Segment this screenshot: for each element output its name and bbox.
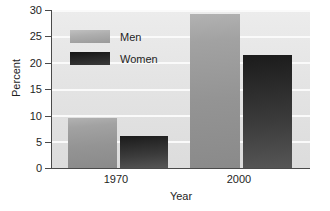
x-axis-title: Year <box>52 190 310 202</box>
legend-swatch-men-icon <box>70 30 110 43</box>
y-tick-15 <box>45 89 51 90</box>
y-tick-25 <box>45 36 51 37</box>
y-tick-label-30: 30 <box>2 5 42 16</box>
gridline-30 <box>52 10 310 12</box>
y-tick-label-5: 5 <box>2 137 42 148</box>
y-tick-10 <box>45 116 51 117</box>
x-tick-label-1970: 1970 <box>86 173 146 185</box>
y-tick-label-15: 15 <box>2 84 42 95</box>
bar-chart: Men Women 30 25 20 15 10 5 0 1970 2000 P… <box>0 0 330 211</box>
bar-men-2000 <box>190 14 240 168</box>
y-tick-label-0: 0 <box>2 163 42 174</box>
y-tick-20 <box>45 63 51 64</box>
legend-item-women: Women <box>70 50 158 67</box>
legend-label-men: Men <box>120 31 141 43</box>
x-tick-label-2000: 2000 <box>209 173 269 185</box>
y-tick-label-10: 10 <box>2 111 42 122</box>
y-tick-label-25: 25 <box>2 31 42 42</box>
bar-men-1970 <box>68 118 117 168</box>
y-tick-0 <box>45 168 51 169</box>
plot-area: Men Women <box>52 10 310 168</box>
legend-label-women: Women <box>120 53 158 65</box>
legend-item-men: Men <box>70 28 158 45</box>
y-axis-line <box>51 10 52 169</box>
y-tick-30 <box>45 10 51 11</box>
bar-women-2000 <box>243 55 292 168</box>
y-tick-label-20: 20 <box>2 58 42 69</box>
legend-swatch-women-icon <box>70 52 110 65</box>
y-tick-5 <box>45 142 51 143</box>
y-axis-title: Percent <box>10 43 22 113</box>
legend: Men Women <box>70 28 158 72</box>
bar-women-1970 <box>120 136 168 168</box>
x-axis-line <box>51 168 310 169</box>
